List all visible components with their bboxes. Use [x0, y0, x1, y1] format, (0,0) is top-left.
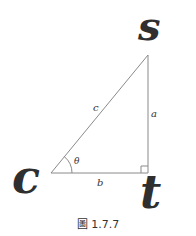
- side-hypotenuse: [51, 55, 148, 173]
- label-theta: θ: [74, 156, 80, 166]
- vertex-label-c: c: [12, 150, 40, 204]
- figure-caption: 圖 1.7.7: [77, 218, 120, 231]
- angle-arc: [64, 157, 72, 173]
- label-hypotenuse: c: [93, 102, 99, 113]
- vertex-label-s: s: [137, 2, 161, 49]
- label-opposite: a: [151, 108, 157, 119]
- label-adjacent: b: [97, 177, 103, 188]
- vertex-label-t: t: [140, 165, 161, 219]
- triangle-diagram: c a b θ s c t 圖 1.7.7: [0, 0, 196, 236]
